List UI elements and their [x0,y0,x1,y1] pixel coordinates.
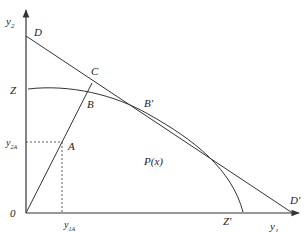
ray-o-to-c [26,83,92,213]
point-a-label: A [67,140,75,152]
ppf-diagram: y2 y1 0 D C Z B B' A D' Z' P(x) y2A y1A [0,0,304,232]
point-z-label: Z [10,84,17,96]
y2-axis-label: y2 [5,15,15,30]
y1-axis-label: y1 [269,220,278,232]
ppf-curve [28,88,243,212]
region-px-label: P(x) [143,155,163,168]
point-b-label: B [87,98,94,110]
point-c-label: C [91,65,99,77]
point-z-prime-label: Z' [223,215,232,227]
origin-label: 0 [10,207,16,219]
tick-y1a-label: y1A [63,219,75,232]
point-b-prime-label: B' [144,97,154,109]
point-d-prime-label: D' [289,194,301,206]
tick-y2a-label: y2A [5,137,17,150]
point-d-label: D [33,26,42,38]
isorevenue-line [26,36,291,212]
